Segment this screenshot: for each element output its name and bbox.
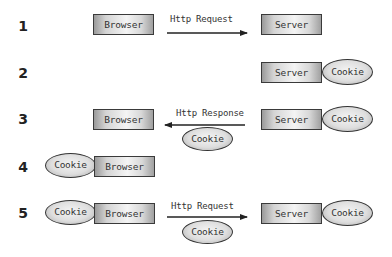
step-number-1: 1 (16, 18, 30, 34)
browser-box-3: Browser (93, 109, 154, 130)
server-box-5: Server (261, 203, 322, 224)
arrow-cookie-3: Cookie (182, 127, 233, 151)
browser-box-4: Browser (94, 156, 155, 177)
browser-cookie-5: Cookie (45, 200, 96, 225)
step-number-3: 3 (16, 111, 30, 127)
server-box-2: Server (261, 62, 322, 83)
step-number-2: 2 (16, 65, 30, 81)
server-cookie-2: Cookie (322, 59, 373, 85)
browser-box-1: Browser (93, 14, 154, 35)
server-cookie-3: Cookie (322, 106, 373, 132)
browser-cookie-4: Cookie (45, 153, 96, 178)
server-cookie-5: Cookie (322, 200, 373, 226)
arrow-label-3: Http Response (176, 108, 244, 118)
step-number-4: 4 (16, 159, 30, 175)
arrow-cookie-5: Cookie (182, 220, 233, 244)
arrow-label-5: Http Request (171, 201, 234, 211)
arrow-label-1: Http Request (170, 14, 233, 24)
server-box-1: Server (261, 14, 322, 35)
browser-box-5: Browser (94, 203, 155, 224)
step-number-5: 5 (16, 205, 30, 221)
server-box-3: Server (261, 109, 322, 130)
